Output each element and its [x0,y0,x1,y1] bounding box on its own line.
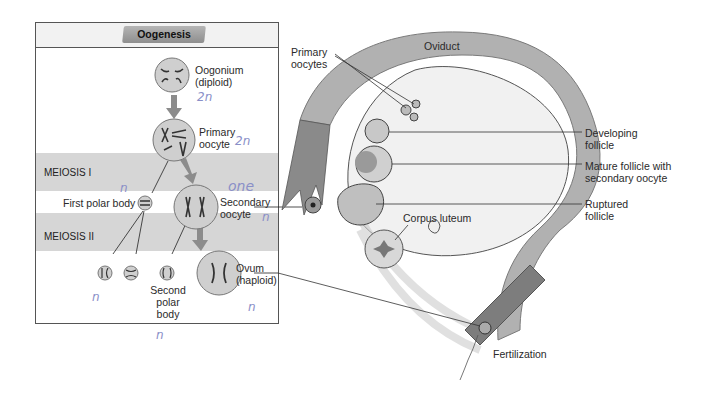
oogonium-cell-icon [155,58,189,92]
note-one: one [228,178,254,194]
oviduct-illustration [282,32,600,380]
primary-oocyte-label: Primaryoocyte [199,126,235,150]
first-polar-body-label: First polar body [63,197,135,209]
oogonium-label: Oogonium(diploid) [195,64,243,88]
second-polar-body-label: Secondpolarbody [150,284,186,320]
note-secondary-oocyte-n: n [262,210,270,224]
second-polar-body-icon [160,266,174,280]
ruptured-follicle-label: Rupturedfollicle [585,198,628,222]
first-polar-body-icon [138,196,152,210]
oviduct-label: Oviduct [424,40,460,52]
primary-oocytes-label: Primaryoocytes [291,46,327,70]
developing-follicle-icon [365,119,389,143]
mature-follicle-label: Mature follicle withsecondary oocyte [585,160,671,184]
polar-body-2-icon [124,266,138,280]
polar-body-1-icon [98,266,112,280]
primary-oocyte-cell-icon [153,119,195,161]
note-first-polar-body-n: n [120,181,128,195]
ruptured-follicle-icon [338,184,384,225]
developing-follicle-label: Developingfollicle [585,127,638,151]
note-oogonium-2n: 2n [197,90,212,104]
note-polar-bodies-n: n [92,290,100,304]
note-ovum-n: n [248,300,256,314]
fertilized-egg-icon [479,322,491,334]
corpus-luteum-label: Corpus luteum [403,212,471,224]
note-second-polar-body-n: n [156,328,164,342]
secondary-oocyte-cell-icon [174,185,218,229]
ovum-label: Ovum(haploid) [236,262,277,286]
fertilization-label: Fertilization [493,348,547,360]
note-primary-oocyte-2n: 2n [235,134,250,148]
ovum-cell-icon [197,251,241,295]
